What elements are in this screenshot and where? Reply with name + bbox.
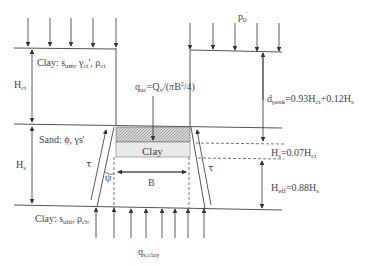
quc-rest: =Q bbox=[147, 81, 160, 92]
surcharge-arrows-left bbox=[28, 18, 116, 47]
gamma-prime: ' bbox=[89, 57, 91, 68]
hct-sub: ct bbox=[21, 84, 26, 92]
dpeak-sub: peak bbox=[272, 98, 285, 106]
dpeak-rest2: +0.12H bbox=[321, 93, 351, 104]
tau-left-label: τ bbox=[86, 160, 91, 169]
psi-label: ψ bbox=[105, 173, 111, 183]
s-sub: um bbox=[65, 62, 74, 70]
rho-sub-bottom: cb bbox=[82, 218, 89, 226]
quc-rest2: /(πB bbox=[163, 81, 181, 92]
p0-sub: 0 bbox=[243, 16, 247, 24]
bottom-clay-label-text: Clay: bbox=[35, 213, 59, 224]
b-label: B bbox=[148, 178, 155, 188]
surcharge-arrows-right bbox=[190, 23, 279, 51]
qvclay-sub: v,clay bbox=[143, 251, 159, 259]
p0-sup: ' bbox=[247, 11, 248, 17]
quc-rest3: /4) bbox=[184, 81, 195, 92]
qvclay-label: qv,clay bbox=[138, 247, 159, 259]
quc-label: quc=Qv/(πB2/4) bbox=[135, 81, 195, 94]
bottom-clay-label: Clay: suhi, ρcb bbox=[35, 214, 89, 226]
quc-sub: uc bbox=[140, 86, 147, 94]
uplift-arrows bbox=[96, 208, 204, 238]
hct-label: Hct bbox=[14, 80, 26, 92]
heff-rest: =0.88H bbox=[286, 182, 316, 193]
sand-bottom-interface bbox=[14, 205, 282, 210]
rho-sub: ct bbox=[100, 62, 105, 70]
top-clay-label-text: Clay: bbox=[37, 57, 61, 68]
sand-label: Sand: ϕ, γs' bbox=[39, 135, 85, 145]
diagram-canvas bbox=[0, 0, 368, 266]
hs-label: Hs bbox=[16, 160, 26, 172]
heff-label: Heff=0.88Hs bbox=[271, 183, 319, 195]
dpeak-rest2-sub: s bbox=[351, 98, 354, 106]
dpeak-label: dpeak=0.93Hct+0.12Hs bbox=[267, 94, 354, 106]
tau-arrow-left bbox=[91, 130, 106, 200]
s-sub-bottom: uhi bbox=[63, 218, 72, 226]
plug-label: Clay bbox=[142, 146, 163, 157]
hg-rest-sub: ct bbox=[311, 152, 316, 160]
top-clay-label: Clay: sum, γct', ρct bbox=[37, 58, 105, 70]
top-clay-surface bbox=[14, 48, 282, 52]
heff-rest-sub: s bbox=[316, 187, 319, 195]
tau-right-label: τ bbox=[208, 164, 213, 173]
hg-label: Hs=0.07Hct bbox=[271, 148, 316, 160]
hg-rest: =0.07H bbox=[281, 147, 311, 158]
heff-sub: eff bbox=[278, 187, 286, 195]
p0-label: p0' bbox=[238, 11, 248, 24]
dpeak-rest: =0.93H bbox=[285, 93, 315, 104]
hs-sub: s bbox=[23, 164, 26, 172]
